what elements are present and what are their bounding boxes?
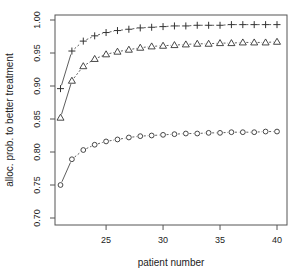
triangle-marker xyxy=(57,114,64,120)
triangle-marker xyxy=(274,38,281,44)
circle-marker xyxy=(161,132,166,137)
triangle-marker xyxy=(194,40,201,46)
plus-marker xyxy=(114,27,121,34)
triangle-marker xyxy=(80,63,87,69)
circle-marker xyxy=(81,148,86,153)
series-plus xyxy=(57,21,281,92)
circle-marker xyxy=(126,135,131,140)
plus-marker xyxy=(239,21,246,28)
plus-marker xyxy=(217,22,224,29)
y-tick-label: 0.80 xyxy=(32,143,42,161)
circle-marker xyxy=(206,130,211,135)
line-chart: 0.700.750.800.850.900.951.00 25303540 pa… xyxy=(0,0,294,276)
plot-frame xyxy=(55,15,287,225)
plus-marker xyxy=(57,85,64,92)
y-tick-label: 1.00 xyxy=(32,11,42,29)
plus-marker xyxy=(228,21,235,28)
y-tick-label: 0.85 xyxy=(32,110,42,128)
plus-marker xyxy=(68,48,75,55)
triangle-marker xyxy=(148,43,155,49)
triangle-marker xyxy=(205,40,212,46)
circle-marker xyxy=(58,183,63,188)
x-tick-label: 30 xyxy=(158,235,168,245)
triangle-marker xyxy=(251,39,258,45)
plus-marker xyxy=(251,21,258,28)
y-tick-label: 0.95 xyxy=(32,44,42,62)
circle-marker xyxy=(275,129,280,134)
plus-marker xyxy=(103,29,110,36)
plus-marker xyxy=(80,38,87,45)
circle-marker xyxy=(104,139,109,144)
triangle-marker xyxy=(182,41,189,47)
circle-marker xyxy=(229,130,234,135)
y-axis-label: alloc. prob. to better treatment xyxy=(4,53,15,187)
plus-marker xyxy=(91,32,98,39)
circle-marker xyxy=(218,130,223,135)
circle-marker xyxy=(115,137,120,142)
triangle-marker xyxy=(160,42,167,48)
series-triangle xyxy=(57,38,281,120)
circle-marker xyxy=(183,131,188,136)
x-axis-label: patient number xyxy=(138,257,205,268)
plus-marker xyxy=(148,24,155,31)
triangle-marker xyxy=(103,51,110,57)
triangle-marker xyxy=(137,44,144,50)
data-series xyxy=(57,21,281,187)
y-tick-label: 0.75 xyxy=(32,176,42,194)
y-tick-label: 0.70 xyxy=(32,209,42,227)
x-axis: 25303540 xyxy=(101,225,282,245)
circle-marker xyxy=(263,129,268,134)
plus-marker xyxy=(194,22,201,29)
plus-marker xyxy=(262,21,269,28)
plus-marker xyxy=(205,22,212,29)
plus-marker xyxy=(160,23,167,30)
circle-marker xyxy=(69,157,74,162)
triangle-marker xyxy=(125,46,132,52)
circle-marker xyxy=(138,134,143,139)
triangle-marker xyxy=(114,48,121,54)
y-tick-label: 0.90 xyxy=(32,77,42,95)
plus-marker xyxy=(182,22,189,29)
triangle-marker xyxy=(262,39,269,45)
y-axis: 0.700.750.800.850.900.951.00 xyxy=(32,11,55,227)
x-tick-label: 25 xyxy=(101,235,111,245)
plus-marker xyxy=(125,26,132,33)
series-circle xyxy=(58,129,279,187)
x-tick-label: 35 xyxy=(215,235,225,245)
triangle-marker xyxy=(91,55,98,61)
plus-marker xyxy=(274,21,281,28)
circle-marker xyxy=(195,131,200,136)
triangle-marker xyxy=(239,39,246,45)
circle-marker xyxy=(240,130,245,135)
triangle-marker xyxy=(171,42,178,48)
circle-marker xyxy=(252,130,257,135)
circle-marker xyxy=(172,132,177,137)
plus-marker xyxy=(137,24,144,31)
triangle-marker xyxy=(217,40,224,46)
triangle-marker xyxy=(228,40,235,46)
x-tick-label: 40 xyxy=(272,235,282,245)
plus-marker xyxy=(171,22,178,29)
circle-marker xyxy=(149,133,154,138)
circle-marker xyxy=(92,142,97,147)
